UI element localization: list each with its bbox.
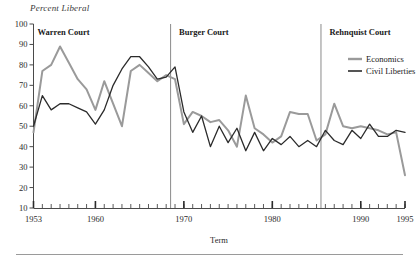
x-tick-label: 1960 [87, 214, 104, 224]
era-label-burger: Burger Court [179, 27, 229, 37]
figure-root: Percent Liberal 102030405060708090100 19… [0, 0, 419, 262]
x-tick-label: 1953 [25, 214, 42, 224]
era-label-warren: Warren Court [38, 27, 90, 37]
x-tick-label: 1980 [264, 214, 281, 224]
x-tick-label: 1990 [352, 214, 369, 224]
footer-rule [16, 254, 403, 255]
era-label-rehnquist: Rehnquist Court [329, 27, 390, 37]
y-axis-ticks: 102030405060708090100 [15, 19, 34, 213]
y-tick-label: 60 [19, 101, 28, 111]
legend-label-civil_liberties: Civil Liberties [366, 66, 415, 76]
y-tick-label: 40 [19, 142, 28, 152]
y-tick-label: 20 [19, 183, 28, 193]
era-labels: Warren CourtBurger CourtRehnquist Court [38, 27, 391, 37]
line-chart-plot: 102030405060708090100 195319601970198019… [0, 0, 419, 262]
x-axis-title: Term [210, 235, 228, 245]
x-axis-tick-labels: 195319601970198019901995 [25, 214, 414, 224]
series-line-economics [34, 46, 406, 175]
y-tick-label: 70 [19, 80, 28, 90]
x-axis-minor-ticks [34, 204, 406, 208]
y-tick-label: 30 [19, 162, 28, 172]
y-tick-label: 10 [19, 203, 28, 213]
legend-label-economics: Economics [366, 54, 404, 64]
chart-legend: EconomicsCivil Liberties [348, 54, 415, 76]
x-tick-label: 1995 [397, 214, 414, 224]
era-divider-lines [171, 24, 321, 208]
y-tick-label: 90 [19, 39, 28, 49]
y-tick-label: 80 [19, 60, 28, 70]
y-tick-label: 100 [15, 19, 28, 29]
data-series-lines [34, 46, 406, 175]
x-tick-label: 1970 [175, 214, 192, 224]
y-tick-label: 50 [19, 121, 28, 131]
